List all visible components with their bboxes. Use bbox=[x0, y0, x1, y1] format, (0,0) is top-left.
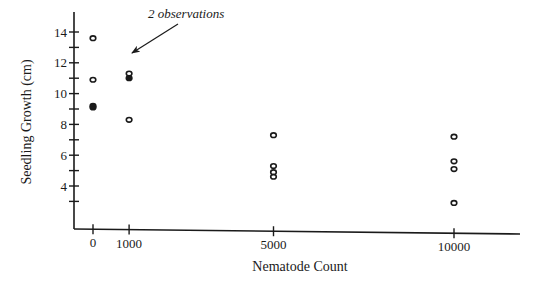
data-point bbox=[451, 159, 457, 164]
y-tick-label: 6 bbox=[61, 148, 68, 163]
y-tick-label: 4 bbox=[61, 179, 68, 194]
data-point bbox=[126, 117, 132, 122]
data-point bbox=[271, 164, 277, 169]
data-point bbox=[451, 167, 457, 172]
y-tick-label: 12 bbox=[54, 55, 67, 70]
x-tick-label: 10000 bbox=[438, 239, 471, 254]
data-point bbox=[90, 36, 96, 41]
x-tick-label: 1000 bbox=[116, 236, 142, 251]
y-tick-label: 10 bbox=[54, 86, 67, 101]
annotation-label: 2 observations bbox=[148, 6, 224, 21]
x-tick-label: 0 bbox=[90, 235, 97, 250]
data-point bbox=[451, 201, 457, 206]
data-point bbox=[451, 134, 457, 139]
x-axis-ticks: 01000500010000 bbox=[90, 224, 471, 254]
data-point bbox=[90, 105, 96, 110]
data-point bbox=[271, 174, 277, 179]
data-point bbox=[90, 77, 96, 82]
y-tick-label: 8 bbox=[61, 117, 68, 132]
x-axis-line bbox=[74, 229, 520, 234]
data-point bbox=[271, 133, 277, 138]
y-tick-label: 14 bbox=[54, 25, 68, 40]
y-axis-ticks: 468101214 bbox=[54, 25, 79, 202]
scatter-chart: 468101214 01000500010000 2 observations … bbox=[0, 0, 537, 285]
y-axis-title: Seedling Growth (cm) bbox=[19, 59, 35, 185]
data-point bbox=[126, 76, 132, 81]
data-points bbox=[90, 36, 457, 205]
x-tick-label: 5000 bbox=[261, 237, 287, 252]
annotation-arrow bbox=[132, 24, 178, 53]
x-axis-title: Nematode Count bbox=[252, 259, 347, 274]
